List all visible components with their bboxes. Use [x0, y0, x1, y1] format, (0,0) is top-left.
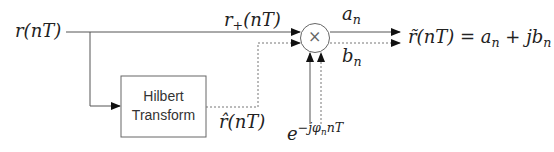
oscillator-label: e−jφnnT — [287, 122, 343, 143]
multiplier-symbol: × — [308, 29, 321, 45]
input-signal-label: r(nT) — [15, 22, 61, 40]
output-b-label: bn — [342, 47, 362, 69]
branch-to-hilbert — [90, 32, 120, 106]
hilbert-output-label: r̂(nT) — [219, 113, 265, 131]
upper-path-label: r+(nT) — [224, 11, 281, 33]
hilbert-block-label: Hilbert Transform — [121, 87, 206, 125]
hilbert-output-line — [206, 43, 300, 107]
output-a-label: an — [342, 5, 361, 27]
result-equation: r̃(nT) = an + jbn — [408, 28, 551, 50]
